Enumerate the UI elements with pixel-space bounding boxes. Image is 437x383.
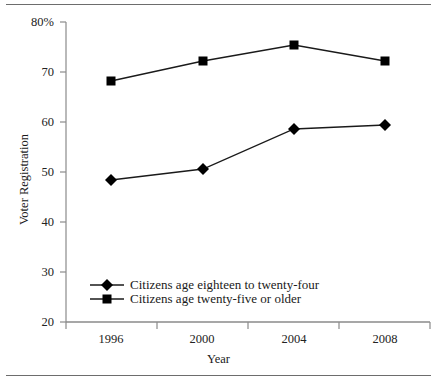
y-tick-label-30: 30 [12, 265, 54, 280]
line-chart-plot [0, 0, 437, 383]
data-point-marker [290, 41, 299, 50]
data-point-marker [197, 163, 209, 175]
series-eighteen-to-twenty-four [105, 119, 391, 186]
x-tick-label-2000: 2000 [172, 332, 232, 347]
x-tick-label-2008: 2008 [355, 332, 415, 347]
legend-marker-square [90, 295, 124, 304]
x-tick-label-1996: 1996 [81, 332, 141, 347]
y-axis-title: Voter Registration [17, 110, 32, 250]
data-point-marker [381, 57, 390, 66]
y-axis-ticks [60, 22, 66, 322]
data-point-marker [107, 77, 116, 86]
legend-marker-diamond [90, 279, 124, 291]
x-axis-title: Year [0, 352, 437, 367]
figure-container: 80% 70 60 50 40 30 20 1996 2000 2004 200… [0, 0, 437, 383]
y-tick-label-70: 70 [12, 65, 54, 80]
data-point-marker [105, 174, 117, 186]
data-point-marker [379, 119, 391, 131]
y-tick-label-80: 80% [12, 15, 54, 30]
x-tick-label-2004: 2004 [264, 332, 324, 347]
y-tick-label-20: 20 [12, 315, 54, 330]
legend-item-label: Citizens age twenty-five or older [130, 291, 301, 307]
data-point-marker [199, 57, 208, 66]
data-point-marker [288, 123, 300, 135]
x-axis-ticks [66, 322, 430, 329]
series-twenty-five-or-older [107, 41, 390, 86]
